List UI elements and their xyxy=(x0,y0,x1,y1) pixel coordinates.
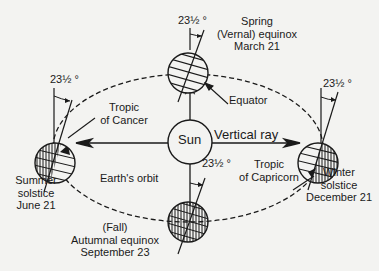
sun-label: Sun xyxy=(178,134,201,147)
tropic-of-capricorn-label: Tropic of Capricorn xyxy=(235,158,303,183)
earth-fall-equinox xyxy=(160,178,216,254)
summer-label-line3: June 21 xyxy=(15,199,57,212)
seasons-diagram: 23½ ° 23½ ° 23½ ° 23½ ° Spring (Vernal) … xyxy=(0,0,379,271)
winter-solstice-label: Winter solstice December 21 xyxy=(301,166,377,204)
tilt-label-summer: 23½ ° xyxy=(50,73,79,86)
earths-orbit-label: Earth's orbit xyxy=(100,172,158,185)
tropic-cancer-line1: Tropic xyxy=(98,101,150,114)
equator-label: Equator xyxy=(229,94,268,107)
spring-label-line3: March 21 xyxy=(212,40,302,53)
tilt-label-fall: 23½ ° xyxy=(202,157,231,170)
fall-label-line1: (Fall) xyxy=(62,221,168,234)
summer-label-line2: solstice xyxy=(15,187,57,200)
spring-equinox-label: Spring (Vernal) equinox March 21 xyxy=(212,15,302,53)
tropic-capricorn-line1: Tropic xyxy=(235,158,303,171)
summer-label-line1: Summer xyxy=(15,174,57,187)
summer-solstice-label: Summer solstice June 21 xyxy=(15,174,57,212)
winter-label-line3: December 21 xyxy=(301,191,377,204)
spring-label-line1: Spring xyxy=(212,15,302,28)
tilt-label-spring: 23½ ° xyxy=(178,14,207,27)
tilt-label-winter: 23½ ° xyxy=(323,77,352,90)
fall-equinox-label: (Fall) Autumnal equinox September 23 xyxy=(62,221,168,259)
spring-label-line2: (Vernal) equinox xyxy=(212,28,302,41)
tropic-cancer-line2: of Cancer xyxy=(98,114,150,127)
tropic-of-cancer-label: Tropic of Cancer xyxy=(98,101,150,126)
winter-label-line1: Winter xyxy=(301,166,377,179)
earth-spring-equinox xyxy=(160,28,216,102)
winter-label-line2: solstice xyxy=(301,179,377,192)
fall-label-line3: September 23 xyxy=(62,246,168,259)
fall-label-line2: Autumnal equinox xyxy=(62,234,168,247)
tropic-capricorn-line2: of Capricorn xyxy=(235,171,303,184)
vertical-ray-label: Vertical ray xyxy=(214,129,278,142)
